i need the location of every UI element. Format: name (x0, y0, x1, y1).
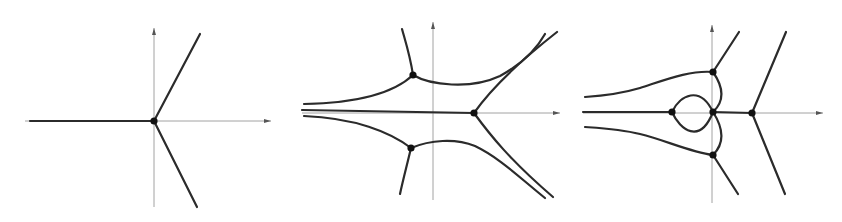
graph-vertex (668, 108, 675, 115)
graph-edge (713, 32, 739, 72)
graph-edge (672, 112, 713, 132)
graph-edge (302, 110, 474, 113)
y-axis-arrow-icon (152, 28, 156, 35)
panel-2 (302, 22, 560, 200)
graph-edge (304, 75, 413, 104)
figure-canvas (0, 0, 842, 222)
x-axis-arrow-icon (816, 111, 823, 115)
panel-1 (25, 28, 271, 207)
graph-edge (154, 34, 200, 121)
graph-edge (154, 121, 197, 207)
graph-edge (752, 32, 786, 113)
y-axis-arrow-icon (431, 22, 435, 29)
graph-edge (400, 148, 411, 194)
y-axis-arrow-icon (710, 25, 714, 32)
graph-vertex (407, 144, 414, 151)
graph-vertex (709, 68, 716, 75)
graph-edge (672, 95, 713, 112)
graph-edge (713, 112, 752, 113)
graph-edge (474, 113, 553, 197)
graph-vertex (709, 108, 716, 115)
graph-edge (402, 29, 413, 75)
graph-edge (411, 141, 545, 198)
graph-edge (713, 112, 721, 155)
graph-vertex (748, 109, 755, 116)
panel-3 (583, 25, 823, 203)
graph-edge (713, 72, 721, 112)
x-axis-arrow-icon (553, 111, 560, 115)
graph-vertex (709, 151, 716, 158)
graph-vertex (150, 117, 157, 124)
graph-edge (752, 113, 785, 194)
graph-vertex (409, 71, 416, 78)
x-axis-arrow-icon (264, 119, 271, 123)
graph-edge (474, 32, 557, 113)
graph-vertex (470, 109, 477, 116)
graph-edge (585, 72, 713, 97)
graph-edge (304, 116, 411, 148)
graph-edge (713, 155, 738, 194)
